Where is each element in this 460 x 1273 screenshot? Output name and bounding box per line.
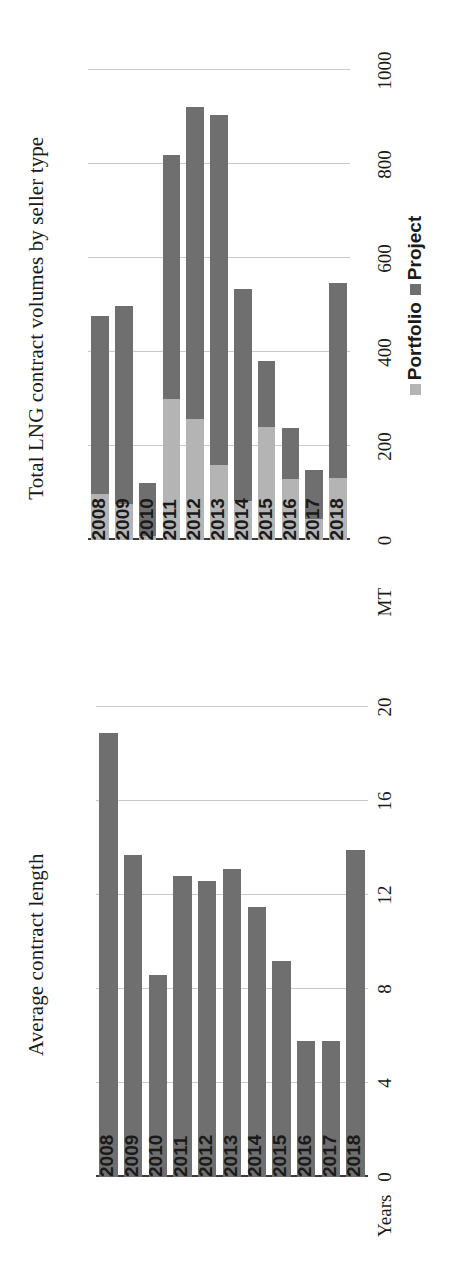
bar-row[interactable] xyxy=(139,71,157,541)
panel-average-contract-length: Average contract length Years 048121620 … xyxy=(0,637,460,1273)
bar-segment-project[interactable] xyxy=(163,155,181,399)
y-tick-label: 8 xyxy=(374,984,396,994)
x-tick-label: 2017 xyxy=(302,517,326,541)
x-tick-label: 2012 xyxy=(195,1153,220,1177)
bar-segment[interactable] xyxy=(124,855,142,1177)
bar-segment-project[interactable] xyxy=(210,115,228,465)
x-tick-label: 2009 xyxy=(112,517,136,541)
bar-row[interactable] xyxy=(163,71,181,541)
legend-label: Project xyxy=(404,216,426,280)
rotated-figure-wrapper: Average contract length Years 048121620 … xyxy=(0,0,460,1273)
bar-segment-project[interactable] xyxy=(91,316,109,495)
bar-row[interactable] xyxy=(346,707,364,1177)
bar-row[interactable] xyxy=(223,707,241,1177)
bar-row[interactable] xyxy=(258,71,276,541)
legend-swatch-icon xyxy=(410,384,421,395)
x-tick-label: 2011 xyxy=(159,517,183,541)
bar-row[interactable] xyxy=(234,71,252,541)
figure: Average contract length Years 048121620 … xyxy=(0,0,460,1273)
bar-row[interactable] xyxy=(248,707,266,1177)
bar-segment-project[interactable] xyxy=(234,289,252,501)
x-tick-label: 2008 xyxy=(96,1153,121,1177)
bar-row[interactable] xyxy=(282,71,300,541)
bar-row[interactable] xyxy=(322,707,340,1177)
y-tick-label: 400 xyxy=(374,338,396,367)
y-tick-label: 0 xyxy=(374,1172,396,1182)
legend-swatch-icon xyxy=(410,284,421,295)
bar-row[interactable] xyxy=(173,707,191,1177)
bar-segment-project[interactable] xyxy=(282,428,300,480)
bar-segment[interactable] xyxy=(99,733,117,1177)
page-canvas: Average contract length Years 048121620 … xyxy=(0,0,460,1273)
x-tick-label: 2013 xyxy=(207,517,231,541)
x-tick-label: 2011 xyxy=(170,1153,195,1177)
bar-row[interactable] xyxy=(91,71,109,541)
right-chart-legend: PortfolioProject xyxy=(404,71,426,541)
y-tick-label: 12 xyxy=(374,886,396,905)
bar-row[interactable] xyxy=(99,707,117,1177)
x-tick-label: 2010 xyxy=(145,1153,170,1177)
bar-row[interactable] xyxy=(297,707,315,1177)
x-tick-label: 2018 xyxy=(343,1153,368,1177)
panel-lng-contract-volumes: Total LNG contract volumes by seller typ… xyxy=(0,0,460,637)
x-tick-label: 2012 xyxy=(183,517,207,541)
left-y-axis-ticks: 048121620 xyxy=(374,707,398,1177)
y-tick-label: 20 xyxy=(374,698,396,717)
bar-segment-project[interactable] xyxy=(186,107,204,420)
bar-row[interactable] xyxy=(210,71,228,541)
bar-segment[interactable] xyxy=(198,881,216,1177)
x-tick-label: 2016 xyxy=(279,517,303,541)
x-tick-label: 2015 xyxy=(269,1153,294,1177)
right-y-axis-ticks: 02004006008001000 xyxy=(374,71,398,541)
legend-item-portfolio[interactable]: Portfolio xyxy=(404,302,426,395)
bar-segment-project[interactable] xyxy=(258,361,276,427)
y-tick-label: 4 xyxy=(374,1078,396,1088)
x-tick-label: 2016 xyxy=(294,1153,319,1177)
bar-segment[interactable] xyxy=(223,869,241,1177)
bar-row[interactable] xyxy=(305,71,323,541)
right-plot-area xyxy=(88,71,350,541)
x-tick-label: 2013 xyxy=(220,1153,245,1177)
right-chart-title: Total LNG contract volumes by seller typ… xyxy=(24,0,49,637)
left-x-axis-labels: 2008200920102011201220132014201520162017… xyxy=(96,1153,368,1177)
legend-item-project[interactable]: Project xyxy=(404,216,426,295)
x-tick-label: 2014 xyxy=(231,517,255,541)
left-chart-title: Average contract length xyxy=(24,637,49,1273)
y-tick-label: 0 xyxy=(374,536,396,546)
x-tick-label: 2017 xyxy=(319,1153,344,1177)
x-tick-label: 2010 xyxy=(136,517,160,541)
right-x-axis-labels: 2008200920102011201220132014201520162017… xyxy=(88,517,350,541)
left-axis-unit-label: Years xyxy=(374,1195,396,1237)
y-tick-label: 200 xyxy=(374,432,396,461)
y-tick-label: 1000 xyxy=(374,52,396,90)
x-tick-label: 2008 xyxy=(88,517,112,541)
left-plot-area xyxy=(96,707,368,1177)
x-tick-label: 2009 xyxy=(121,1153,146,1177)
bar-segment[interactable] xyxy=(173,876,191,1177)
x-tick-label: 2014 xyxy=(244,1153,269,1177)
y-tick-label: 16 xyxy=(374,792,396,811)
bar-segment-project[interactable] xyxy=(329,283,347,478)
right-axis-unit-label: MT xyxy=(374,588,396,617)
x-tick-label: 2018 xyxy=(326,517,350,541)
x-tick-label: 2015 xyxy=(255,517,279,541)
bar-row[interactable] xyxy=(186,71,204,541)
y-tick-label: 800 xyxy=(374,150,396,179)
bar-row[interactable] xyxy=(329,71,347,541)
bar-segment[interactable] xyxy=(346,850,364,1177)
bar-row[interactable] xyxy=(115,71,133,541)
bar-row[interactable] xyxy=(272,707,290,1177)
y-tick-label: 600 xyxy=(374,244,396,273)
bar-row[interactable] xyxy=(198,707,216,1177)
bar-row[interactable] xyxy=(124,707,142,1177)
bar-row[interactable] xyxy=(149,707,167,1177)
bar-segment-project[interactable] xyxy=(115,306,133,503)
legend-label: Portfolio xyxy=(404,302,426,380)
